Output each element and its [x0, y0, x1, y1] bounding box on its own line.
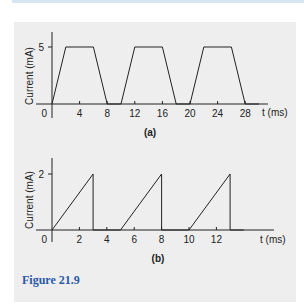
- chart-b-x-label: t (ms): [260, 234, 286, 245]
- chart-a-x-tick-labels: 0481216202428: [41, 108, 251, 119]
- svg-text:8: 8: [104, 108, 110, 119]
- chart-b-series: [52, 174, 244, 230]
- chart-b: 024681012 2 Current (mA) t (ms) (b): [24, 158, 286, 264]
- chart-a-y-label: Current (mA): [24, 47, 35, 105]
- svg-text:0: 0: [41, 108, 47, 119]
- svg-text:4: 4: [77, 108, 83, 119]
- chart-b-y-tick-label: 2: [38, 169, 44, 180]
- svg-text:12: 12: [129, 108, 141, 119]
- chart-b-x-tick-labels: 024681012: [41, 234, 222, 245]
- figure-caption: Figure 21.9: [22, 273, 80, 288]
- svg-text:12: 12: [211, 234, 223, 245]
- figure-svg: 0481216202428 5 Current (mA) t (ms) (a) …: [0, 0, 304, 308]
- svg-text:28: 28: [240, 108, 252, 119]
- svg-text:6: 6: [131, 234, 137, 245]
- chart-a-y-tick-label: 5: [38, 42, 44, 53]
- svg-text:24: 24: [212, 108, 224, 119]
- svg-text:0: 0: [41, 234, 47, 245]
- chart-a-panel-label: (a): [144, 127, 156, 138]
- chart-a-x-label: t (ms): [262, 107, 288, 118]
- svg-text:10: 10: [183, 234, 195, 245]
- svg-text:20: 20: [184, 108, 196, 119]
- svg-text:4: 4: [104, 234, 110, 245]
- chart-b-panel-label: (b): [152, 253, 165, 264]
- svg-text:2: 2: [77, 234, 83, 245]
- chart-a: 0481216202428 5 Current (mA) t (ms) (a): [24, 32, 288, 138]
- svg-text:16: 16: [157, 108, 169, 119]
- chart-b-y-label: Current (mA): [24, 171, 35, 229]
- chart-a-series: [52, 47, 259, 104]
- svg-text:8: 8: [159, 234, 165, 245]
